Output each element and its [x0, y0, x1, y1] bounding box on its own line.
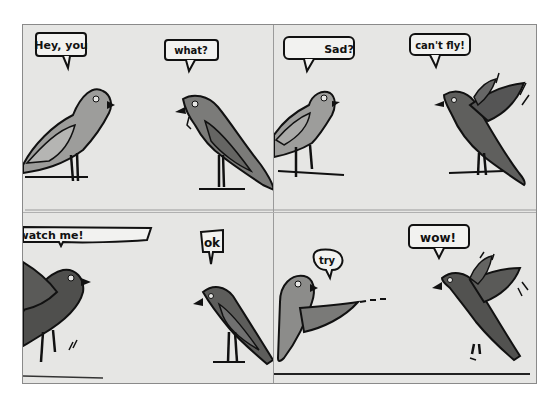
- comic-panel-3: watch me! ok: [23, 212, 274, 384]
- comic-sheet: Hey, you what?: [22, 24, 537, 384]
- panel-divider-vertical: [273, 25, 274, 383]
- bird-light-pointing: [278, 276, 386, 361]
- bird-dark-flapping: [434, 73, 529, 185]
- speech-bubble-sad: Sad?: [284, 37, 354, 71]
- bubble-text: what?: [174, 45, 208, 56]
- comic-panel-2: Sad? can't fly!: [274, 25, 536, 212]
- speech-bubble-hey-you: Hey, you: [34, 33, 88, 68]
- bird-dark-left: [23, 262, 91, 362]
- speech-bubble-wow: wow!: [409, 225, 469, 258]
- bird-dark-right: [193, 287, 273, 364]
- bubble-text: wow!: [420, 231, 456, 245]
- bubble-text: ok: [204, 236, 221, 250]
- bubble-text: watch me!: [23, 229, 83, 242]
- bubble-text: can't fly!: [415, 40, 465, 51]
- speech-bubble-cant-fly: can't fly!: [410, 34, 470, 67]
- speech-bubble-what: what?: [165, 40, 218, 71]
- bubble-text: Sad?: [324, 43, 354, 56]
- speech-bubble-try: try: [314, 250, 343, 279]
- speech-bubble-ok: ok: [201, 230, 223, 264]
- bubble-text: Hey, you: [34, 39, 88, 52]
- bird-light-left: [23, 89, 115, 181]
- bird-dark-flying: [432, 252, 528, 360]
- comic-panel-1: Hey, you what?: [23, 25, 274, 212]
- comic-panel-4: try wow!: [274, 212, 536, 384]
- bird-dark-right: [175, 96, 274, 190]
- speech-bubble-watch-me: watch me!: [23, 227, 151, 246]
- panel-divider-horizontal: [23, 212, 536, 213]
- bird-light-left: [274, 92, 344, 177]
- bubble-text: try: [319, 255, 336, 266]
